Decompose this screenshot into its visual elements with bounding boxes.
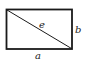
rectangle-diagram: e b a [0, 0, 85, 61]
diagonal-label: e [39, 19, 45, 30]
height-label: b [75, 24, 81, 35]
width-label: a [35, 50, 41, 61]
